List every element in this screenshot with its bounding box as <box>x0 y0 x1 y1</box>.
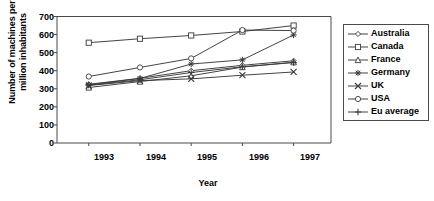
chart-legend: AustraliaCanadaFranceGermanyUKUSAEu aver… <box>343 24 429 121</box>
series-canada <box>86 23 296 45</box>
legend-item-eu-average[interactable]: Eu average <box>344 105 428 118</box>
triangle-marker-icon <box>347 54 369 66</box>
axis-ticks <box>54 17 294 147</box>
legend-item-germany[interactable]: Germany <box>344 66 428 79</box>
legend-item-uk[interactable]: UK <box>344 79 428 92</box>
chart-figure: Number of machines per million inhabitan… <box>0 0 434 201</box>
star-marker-icon <box>347 67 369 79</box>
legend-item-australia[interactable]: Australia <box>344 27 428 40</box>
legend-item-france[interactable]: France <box>344 53 428 66</box>
legend-item-label: France <box>369 54 401 65</box>
circle-marker-icon <box>347 93 369 105</box>
legend-item-label: UK <box>369 80 384 91</box>
legend-item-label: Eu average <box>369 106 419 117</box>
legend-item-canada[interactable]: Canada <box>344 40 428 53</box>
legend-item-label: USA <box>369 93 390 104</box>
legend-item-usa[interactable]: USA <box>344 92 428 105</box>
diamond-marker-icon <box>347 28 369 40</box>
legend-item-label: Australia <box>369 28 410 39</box>
x-marker-icon <box>347 80 369 92</box>
data-series-layer <box>86 23 297 90</box>
legend-item-label: Germany <box>369 67 410 78</box>
square-marker-icon <box>347 41 369 53</box>
legend-item-label: Canada <box>369 41 404 52</box>
plus-marker-icon <box>347 106 369 118</box>
